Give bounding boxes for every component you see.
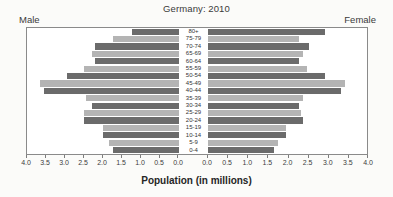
axis-tick-mark <box>140 155 141 158</box>
axis-tick-label: 4.0 <box>363 159 373 166</box>
female-bar <box>208 58 299 64</box>
female-bar <box>208 80 345 86</box>
male-bar <box>84 110 179 116</box>
female-bar <box>208 140 278 146</box>
male-panel-label: Male <box>19 14 40 25</box>
female-bar-row <box>208 87 367 94</box>
age-group-label: 50-54 <box>179 72 208 79</box>
male-bar-row <box>27 124 179 131</box>
male-bar <box>113 36 180 42</box>
axis-tick-mark <box>328 155 329 158</box>
male-bar-row <box>27 132 179 139</box>
axis-tick-mark <box>177 155 178 158</box>
male-bar <box>109 140 179 146</box>
age-group-label: 25-29 <box>179 109 208 116</box>
female-bar <box>208 36 299 42</box>
age-group-label: 55-59 <box>179 65 208 72</box>
male-bar-row <box>27 28 179 35</box>
male-bar <box>95 43 179 49</box>
female-bar-row <box>208 28 367 35</box>
axis-tick-label: 3.0 <box>59 159 69 166</box>
axis-tick-mark <box>64 155 65 158</box>
male-bar-row <box>27 43 179 50</box>
male-bar-row <box>27 109 179 116</box>
female-bar <box>208 73 325 79</box>
axis-tick-mark <box>247 155 248 158</box>
axis-tick-mark <box>227 155 228 158</box>
male-bar <box>92 51 179 57</box>
axis-tick-label: 1.0 <box>242 159 252 166</box>
age-group-label: 45-49 <box>179 80 208 87</box>
axis-tick-mark <box>288 155 289 158</box>
male-bar <box>113 147 180 153</box>
female-bar <box>208 110 301 116</box>
axis-tick-label: 3.5 <box>343 159 353 166</box>
male-bar-row <box>27 65 179 72</box>
chart-title: Germany: 2010 <box>0 3 393 14</box>
axis-tick-mark <box>348 155 349 158</box>
axis-tick-label: 0.5 <box>222 159 232 166</box>
female-bar-row <box>208 58 367 65</box>
male-bar-row <box>27 95 179 102</box>
female-bar <box>208 125 286 131</box>
age-group-label: 15-19 <box>179 124 208 131</box>
male-bar-row <box>27 72 179 79</box>
age-group-label: 10-14 <box>179 132 208 139</box>
age-group-label: 0-4 <box>179 147 208 154</box>
female-bars-panel <box>208 28 367 154</box>
age-group-label: 40-44 <box>179 87 208 94</box>
female-bar <box>208 103 299 109</box>
axis-tick-label: 1.5 <box>116 159 126 166</box>
population-pyramid-chart: Germany: 2010 Male Female 80+75-7970-746… <box>0 0 393 197</box>
female-bar <box>208 29 325 35</box>
male-bar <box>86 95 179 101</box>
axis-tick-label: 1.0 <box>135 159 145 166</box>
plot-area: 80+75-7970-7465-6960-6455-5950-5445-4940… <box>26 27 368 155</box>
axis-tick-mark <box>308 155 309 158</box>
axis-tick-mark <box>159 155 160 158</box>
male-bar <box>103 132 179 138</box>
age-group-label: 35-39 <box>179 95 208 102</box>
axis-tick-label: 3.5 <box>40 159 50 166</box>
axis-tick-label: 0.0 <box>202 159 212 166</box>
axis-tick-label: 1.5 <box>263 159 273 166</box>
male-bar-row <box>27 58 179 65</box>
female-panel-label: Female <box>344 14 376 25</box>
female-bar <box>208 132 286 138</box>
axis-tick-mark <box>121 155 122 158</box>
female-bar-row <box>208 72 367 79</box>
male-bar-row <box>27 139 179 146</box>
male-bar <box>67 73 179 79</box>
female-bar <box>208 95 303 101</box>
male-bar-row <box>27 117 179 124</box>
male-x-axis: 4.03.53.02.52.01.51.00.50.0 <box>26 155 178 173</box>
male-bar <box>132 29 180 35</box>
axis-tick-label: 0.0 <box>173 159 183 166</box>
age-group-label: 20-24 <box>179 117 208 124</box>
age-group-label: 30-34 <box>179 102 208 109</box>
male-bar <box>40 80 179 86</box>
age-group-label: 5-9 <box>179 139 208 146</box>
male-bar-row <box>27 50 179 57</box>
axis-tick-label: 2.5 <box>303 159 313 166</box>
age-group-axis: 80+75-7970-7465-6960-6455-5950-5445-4940… <box>179 28 208 154</box>
male-bars-panel <box>27 28 179 154</box>
axis-tick-mark <box>102 155 103 158</box>
male-bar-row <box>27 35 179 42</box>
female-bar <box>208 117 303 123</box>
axis-tick-mark <box>367 155 368 158</box>
female-bar <box>208 66 307 72</box>
male-bar <box>84 117 179 123</box>
axis-tick-mark <box>26 155 27 158</box>
axis-tick-mark <box>45 155 46 158</box>
female-bar <box>208 43 309 49</box>
male-bar <box>103 125 179 131</box>
female-bar-row <box>208 109 367 116</box>
axis-tick-label: 2.0 <box>97 159 107 166</box>
female-bar-row <box>208 50 367 57</box>
axis-tick-label: 2.0 <box>283 159 293 166</box>
axis-tick-mark <box>207 155 208 158</box>
female-bar <box>208 88 341 94</box>
axis-tick-mark <box>83 155 84 158</box>
axis-tick-label: 3.0 <box>323 159 333 166</box>
